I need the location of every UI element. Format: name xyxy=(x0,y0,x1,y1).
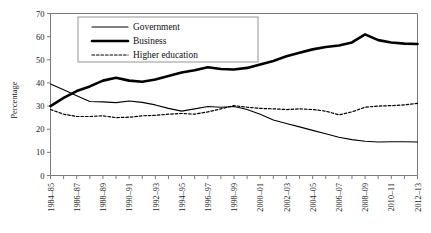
y-tick-label: 0 xyxy=(40,171,44,181)
x-tick-label: 1998–99 xyxy=(230,183,239,212)
series-line-government xyxy=(51,84,418,142)
y-tick-label: 50 xyxy=(36,55,45,65)
y-tick-label: 60 xyxy=(36,32,45,42)
y-tick-label: 70 xyxy=(36,9,45,19)
chart-legend: GovernmentBusinessHigher education xyxy=(78,17,258,62)
y-tick-label: 30 xyxy=(36,101,45,111)
y-tick-label: 10 xyxy=(36,147,45,157)
x-tick-label: 1996–97 xyxy=(204,183,213,212)
x-tick-label: 2012–13 xyxy=(414,183,423,212)
line-chart: 010203040506070 1984–851986–871988–89199… xyxy=(0,0,431,233)
y-tick-label: 20 xyxy=(36,124,45,134)
x-tick-label: 1992–93 xyxy=(152,183,161,212)
x-tick-label: 1994–95 xyxy=(178,183,187,212)
x-tick-label: 2000–01 xyxy=(256,183,265,212)
y-axis-title: Percentage xyxy=(9,81,19,119)
x-tick-label: 1988–89 xyxy=(99,183,108,212)
y-tick-label: 40 xyxy=(36,78,45,88)
x-tick-label: 1990–91 xyxy=(125,183,134,212)
legend-label-government: Government xyxy=(133,22,180,32)
y-axis: 010203040506070 xyxy=(36,9,51,181)
legend-label-higher-education: Higher education xyxy=(133,50,198,60)
x-tick-label: 2008–09 xyxy=(361,183,370,212)
x-tick-label: 2002–03 xyxy=(283,183,292,212)
x-tick-label: 2006–07 xyxy=(335,183,344,212)
x-axis: 1984–851986–871988–891990–911992–931994–… xyxy=(47,176,423,212)
chart-container: 010203040506070 1984–851986–871988–89199… xyxy=(0,0,431,233)
legend-label-business: Business xyxy=(133,36,167,46)
x-tick-label: 2010–11 xyxy=(387,183,396,211)
x-tick-label: 2004–05 xyxy=(309,183,318,212)
x-tick-label: 1984–85 xyxy=(47,183,56,212)
x-tick-label: 1986–87 xyxy=(73,183,82,212)
series-line-higher-education xyxy=(51,103,418,117)
